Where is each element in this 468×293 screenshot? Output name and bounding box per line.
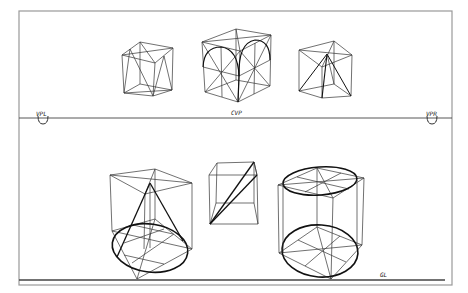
vanishing-point-right: VPR xyxy=(426,110,437,124)
cone-in-cube xyxy=(109,169,192,279)
drawing-frame xyxy=(19,11,452,285)
cube-arches xyxy=(202,29,271,102)
vpl-label: VPL xyxy=(36,110,47,117)
cube-diagonals xyxy=(122,42,173,96)
cube-plane xyxy=(209,162,258,224)
cube-pyramid xyxy=(299,41,352,98)
gl-label: GL xyxy=(380,271,388,278)
vpr-label: VPR xyxy=(426,110,437,117)
cylinder-in-cube xyxy=(278,164,364,279)
vanishing-point-left: VPL xyxy=(36,110,48,124)
perspective-drawing: VPL CVP VPR GL xyxy=(0,0,468,293)
cvp-label: CVP xyxy=(231,109,242,116)
